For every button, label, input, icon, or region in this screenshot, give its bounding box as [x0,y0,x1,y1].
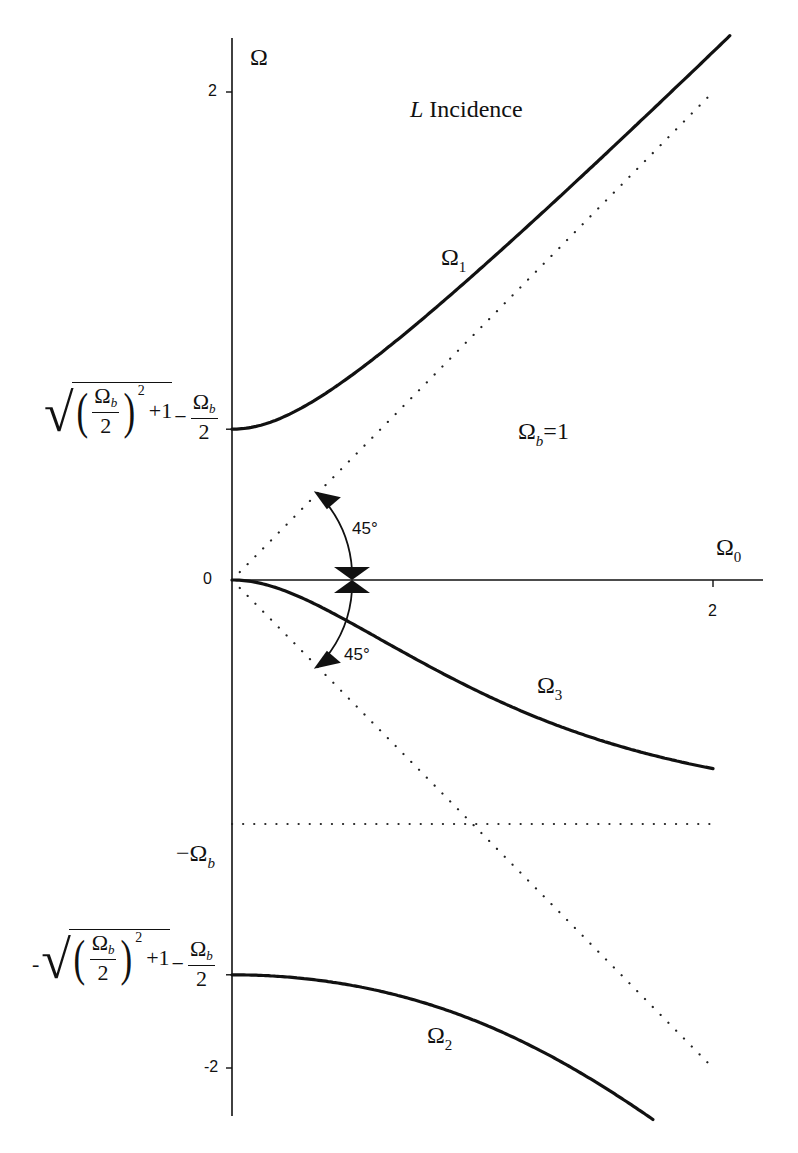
title-rest: Incidence [423,96,522,122]
omega2-label: Ω2 [427,1022,452,1049]
omega2-sub: 2 [445,1037,453,1053]
x-axis-label: Ω0 [716,534,741,561]
dispersion-curves [232,36,730,1120]
lower-bowtie-triangle-icon [334,580,370,593]
neg-omega-b-label: −Ωb [176,840,215,867]
plus-one: +1 [149,398,172,424]
num-sub-4: b [206,948,213,963]
num-sub: b [111,395,118,410]
den-4: 2 [196,966,207,992]
radical-sign: √ [44,386,74,440]
upper-root-formula: √ ( Ωb 2 ) 2 +1 − Ωb 2 [44,388,220,445]
minus-2: − [172,951,184,977]
den-2: 2 [199,419,210,445]
den-3: 2 [98,960,109,986]
fraction: Ωb 2 [92,383,119,439]
upper-arrowhead-icon [314,491,341,509]
x-tick-2: 2 [708,602,717,620]
y-axis-label: Ω [250,44,268,71]
plus-one-2: +1 [146,945,169,971]
x-axis-label-main: Ω [716,534,734,560]
omega3-sub: 3 [555,687,563,703]
radical-sign-2: √ [41,933,71,987]
neg-omega-b-sub: b [207,855,215,871]
num-omega-4: Ω [190,936,206,961]
negative-sign: - [32,951,39,977]
chart-title: L Incidence [410,96,523,123]
axes [226,38,763,1116]
curve-omega3 [232,580,713,769]
exponent: 2 [138,383,145,399]
omega1-main: Ω [441,244,459,270]
fraction-2: Ωb 2 [191,389,218,445]
omega2-main: Ω [427,1022,445,1048]
num-omega-3: Ω [92,930,108,955]
fraction-4: Ωb 2 [188,936,215,992]
radicand-2: ( Ωb 2 ) 2 +1 [69,929,170,986]
omega3-label: Ω3 [537,672,562,699]
curve-omega1 [232,36,730,430]
dotted-asymptote [232,92,713,580]
fraction-3: Ωb 2 [90,930,117,986]
angle-lower-label: 45° [344,645,370,665]
lower-arrowhead-icon [314,651,341,669]
title-italic: L [410,96,423,122]
angle-upper-label: 45° [352,519,378,539]
omega3-main: Ω [537,672,555,698]
dotted-asymptote [232,580,713,1068]
omega1-sub: 1 [459,259,467,275]
den: 2 [100,413,111,439]
radicand: ( Ωb 2 ) 2 +1 [72,382,173,439]
param-main: Ω [518,418,536,444]
paren-open-2: ( [73,933,85,983]
x-axis-label-sub: 0 [734,549,742,565]
minus: − [174,404,186,430]
upper-bowtie-triangle-icon [334,567,370,580]
param-rest: =1 [543,418,569,444]
paren-open: ( [76,386,88,436]
num-omega-2: Ω [193,389,209,414]
y-tick-neg2: -2 [204,1058,218,1076]
paren-close: ) [124,386,136,436]
num-omega: Ω [94,383,110,408]
upper-angle-arc [325,501,352,570]
y-tick-2: 2 [208,82,217,100]
parameter-label: Ωb=1 [518,418,569,445]
omega1-label: Ω1 [441,244,466,271]
exponent-2: 2 [135,930,142,946]
paren-close-2: ) [121,933,133,983]
num-sub-3: b [108,942,115,957]
y-tick-0: 0 [203,570,212,588]
param-sub: b [536,433,544,449]
lower-root-formula: - √ ( Ωb 2 ) 2 +1 − Ωb 2 [32,935,217,992]
num-sub-2: b [209,401,216,416]
neg-omega-b-main: −Ω [176,840,207,866]
